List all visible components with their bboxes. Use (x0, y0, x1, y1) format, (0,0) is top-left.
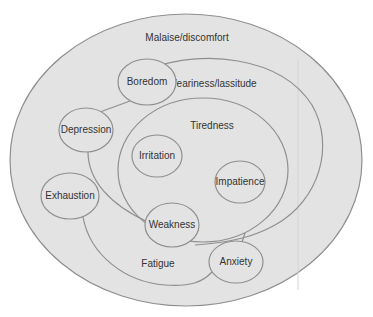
depression-label: Depression (61, 124, 112, 135)
node-exhaustion: Exhaustion (41, 173, 99, 219)
irritation-label: Irritation (139, 150, 175, 161)
impatience-label: Impatience (216, 176, 265, 187)
node-depression: Depression (59, 108, 113, 152)
weariness-label: Weariness/lassitude (167, 78, 257, 89)
node-anxiety: Anxiety (209, 241, 263, 283)
node-boredom: Boredom (118, 59, 176, 105)
boredom-label: Boredom (127, 76, 168, 87)
malaise-region (10, 14, 362, 306)
node-weakness: Weakness (145, 203, 199, 247)
anxiety-label: Anxiety (220, 256, 253, 267)
malaise-label: Malaise/discomfort (145, 32, 229, 43)
concept-diagram: Malaise/discomfort Weariness/lassitude T… (0, 0, 373, 317)
tiredness-label: Tiredness (190, 120, 234, 131)
fatigue-label: Fatigue (141, 258, 175, 269)
node-impatience: Impatience (215, 161, 265, 203)
weakness-label: Weakness (149, 219, 196, 230)
node-irritation: Irritation (132, 135, 182, 177)
exhaustion-label: Exhaustion (45, 190, 94, 201)
